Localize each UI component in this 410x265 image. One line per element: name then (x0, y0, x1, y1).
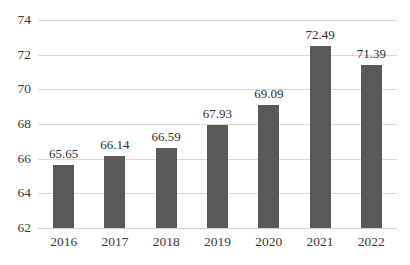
y-tick-label: 62 (18, 221, 32, 235)
bar-value-label: 72.49 (305, 28, 334, 41)
bar-value-label: 69.09 (254, 87, 283, 100)
y-tick-label: 72 (18, 48, 32, 62)
bar[interactable] (156, 148, 177, 228)
bar[interactable] (104, 156, 125, 228)
y-tick-label: 64 (18, 187, 32, 201)
bar-slot: 66.14 (89, 20, 140, 228)
bar[interactable] (361, 65, 382, 228)
bar-value-label: 66.59 (152, 130, 181, 143)
bar-value-label: 67.93 (203, 107, 232, 120)
x-tick-label: 2018 (141, 232, 192, 252)
y-tick-label: 68 (18, 117, 32, 131)
bar-slot: 69.09 (243, 20, 294, 228)
bar-value-label: 66.14 (100, 138, 129, 151)
bar-slot: 72.49 (294, 20, 345, 228)
bar[interactable] (207, 125, 228, 228)
x-tick-label: 2021 (294, 232, 345, 252)
x-axis-tick-labels: 2016201720182019202020212022 (38, 232, 397, 252)
x-tick-label: 2020 (243, 232, 294, 252)
bar[interactable] (310, 46, 331, 228)
axis-baseline: 62 (38, 228, 397, 229)
bar-value-label: 65.65 (49, 147, 78, 160)
bar[interactable] (258, 105, 279, 228)
bar-slot: 65.65 (38, 20, 89, 228)
x-tick-label: 2022 (346, 232, 397, 252)
x-tick-label: 2016 (38, 232, 89, 252)
y-tick-label: 66 (18, 152, 32, 166)
y-tick-label: 70 (18, 83, 32, 97)
bar-slot: 66.59 (141, 20, 192, 228)
x-tick-label: 2017 (89, 232, 140, 252)
x-tick-label: 2019 (192, 232, 243, 252)
bar[interactable] (53, 165, 74, 228)
bar-slot: 71.39 (346, 20, 397, 228)
y-tick-label: 74 (18, 13, 32, 27)
bars-group: 65.6566.1466.5967.9369.0972.4971.39 (38, 20, 397, 228)
plot-area: 62646668707274 65.6566.1466.5967.9369.09… (38, 20, 397, 228)
bar-value-label: 71.39 (357, 47, 386, 60)
bar-chart: 62646668707274 65.6566.1466.5967.9369.09… (0, 0, 410, 265)
bar-slot: 67.93 (192, 20, 243, 228)
